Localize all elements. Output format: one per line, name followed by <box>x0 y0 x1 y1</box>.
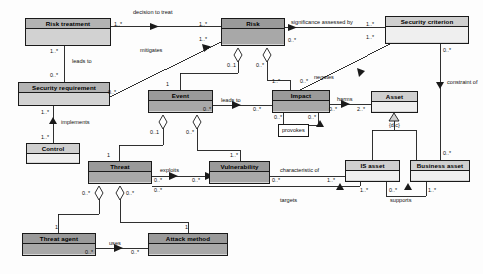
mult-threat-right: 0..* <box>154 177 162 183</box>
class-attributes-attack-method <box>149 244 227 254</box>
reading-arrow-decision-to-treat <box>150 23 159 30</box>
aggregation-diamond-threat-agent <box>95 186 103 200</box>
class-name-asset: Asset <box>372 92 417 102</box>
class-security-criterion[interactable]: Security criterion <box>385 16 469 44</box>
assoc-label-constraint-of: constraint of <box>447 79 477 86</box>
assoc-label-decision-to-treat: decision to treat <box>133 9 173 16</box>
class-name-risk: Risk <box>222 19 284 29</box>
assoc-label-harms: harms <box>337 96 353 103</box>
assoc-label-supports: supports <box>390 197 411 204</box>
reading-arrow-negates <box>357 68 365 77</box>
mult-control-up: 1..* <box>41 134 49 140</box>
reading-arrow-implements <box>49 117 57 124</box>
class-vulnerability[interactable]: Vulnerability <box>209 161 270 184</box>
class-name-security-criterion: Security criterion <box>386 17 468 27</box>
mult-is-asset-supports: 0..* <box>389 187 397 193</box>
reading-arrow-constraint-of <box>436 82 444 89</box>
mult-impact-top: 1..* <box>272 78 280 84</box>
class-attributes-vulnerability <box>210 172 269 182</box>
mult-is-asset-targets: 1..* <box>360 187 368 193</box>
class-security-requirement[interactable]: Security requirement <box>18 82 110 106</box>
mult-sec-crit-negates: 1..* <box>366 34 374 40</box>
mult-threat-agg-a: 0..* <box>82 190 90 196</box>
mult-risk-treatment-right: 1..* <box>114 21 122 27</box>
class-name-is-asset: IS asset <box>346 161 399 171</box>
class-impact[interactable]: Impact <box>272 90 330 113</box>
mult-risk-event-end: 0..1 <box>227 62 236 68</box>
class-control[interactable]: Control <box>26 143 80 164</box>
mult-threat-agent-top: 1 <box>55 224 58 230</box>
assoc-label-exploits: exploits <box>160 167 179 174</box>
mult-asset-left: 2..* <box>357 106 365 112</box>
assoc-label-implements: implements <box>61 119 90 126</box>
class-attributes-is-asset <box>346 171 399 180</box>
assoc-label-leads-to-treatment: leads to <box>72 58 92 65</box>
class-asset[interactable]: Asset <box>371 91 418 113</box>
class-attributes-security-criterion <box>386 27 468 42</box>
class-attributes-impact <box>273 101 329 111</box>
mult-impact-provokes-a: 0..* <box>274 114 282 120</box>
class-risk[interactable]: Risk <box>221 18 285 46</box>
class-name-threat: Threat <box>89 162 151 172</box>
mult-event-top: 1 <box>166 81 169 87</box>
mult-sec-req-right: 0..* <box>108 89 116 95</box>
assoc-label-targets: targets <box>280 197 297 204</box>
class-name-event: Event <box>149 91 212 101</box>
class-name-vulnerability: Vulnerability <box>210 162 269 172</box>
mult-risk-treatment-down: 1..* <box>50 48 58 54</box>
aggregation-diamond-event-vuln <box>193 115 201 129</box>
assoc-label-significance: significance assessed by <box>291 19 353 26</box>
mult-sec-crit-left: 1..* <box>366 21 374 27</box>
class-attack-method[interactable]: Attack method <box>148 233 228 256</box>
mult-impact-provokes-b: 0..* <box>308 114 316 120</box>
mult-threat-top: 1 <box>107 152 110 158</box>
mult-is-asset-left: 1..* <box>327 177 335 183</box>
class-business-asset[interactable]: Business asset <box>410 160 470 182</box>
mult-business-asset-constraint: 0..* <box>443 150 451 156</box>
class-name-risk-treatment: Risk treatment <box>26 19 110 29</box>
class-attributes-asset <box>372 102 417 111</box>
reading-arrow-supports <box>404 183 412 190</box>
class-name-threat-agent: Threat agent <box>23 234 95 244</box>
class-attributes-business-asset <box>411 171 469 180</box>
mult-sec-req-down: 1..* <box>41 109 49 115</box>
mult-threat-agent-right: 0..* <box>85 249 93 255</box>
mult-risk-impact-end: 0..* <box>256 62 264 68</box>
aggregation-diamond-risk-impact <box>263 48 271 62</box>
assoc-label-provokes: provokes <box>278 124 309 137</box>
assoc-label-uses: uses <box>109 240 121 247</box>
mult-risk-mitigates: 1..* <box>199 36 207 42</box>
mult-impact-harms: 0..* <box>329 106 337 112</box>
class-attributes-control <box>27 154 79 162</box>
reading-arrow-targets <box>336 183 344 190</box>
mult-impact-negates: 0..* <box>300 78 308 84</box>
mult-sec-crit-constraint: 0..* <box>443 47 451 53</box>
class-name-attack-method: Attack method <box>149 234 227 244</box>
class-name-security-requirement: Security requirement <box>19 83 109 93</box>
aggregation-diamond-event-threat <box>159 115 167 129</box>
assoc-label-characteristic-of: characteristic of <box>280 167 319 174</box>
assoc-label-mitigates: mitigates <box>140 47 162 54</box>
class-attributes-risk-treatment <box>26 29 110 44</box>
generalization-triangle-asset <box>389 113 399 121</box>
mult-attack-method-left: 0..* <box>131 249 139 255</box>
class-name-control: Control <box>27 144 79 154</box>
mult-impact-left: 0..* <box>253 106 261 112</box>
mult-vuln-left: 0..* <box>192 177 200 183</box>
class-name-impact: Impact <box>273 91 329 101</box>
mult-vuln-top: 1..* <box>230 152 238 158</box>
mult-event-threat-end: 0..1 <box>150 129 159 135</box>
aggregation-diamond-risk-event <box>234 48 242 62</box>
assoc-label-leads-to-event: leads to <box>221 97 241 104</box>
mult-event-vuln-end: 0..* <box>186 129 194 135</box>
class-attributes-threat <box>89 172 151 182</box>
uml-class-diagram: Risk treatment Risk Security criterion S… <box>0 0 483 274</box>
mult-threat-targets: 0..* <box>154 187 162 193</box>
generalization-constraint-dc: {d,c} <box>389 122 400 128</box>
class-is-asset[interactable]: IS asset <box>345 160 400 182</box>
class-threat[interactable]: Threat <box>88 161 152 184</box>
mult-threat-agg-b: 0..* <box>126 190 134 196</box>
mult-sec-req-up: 0..* <box>50 72 58 78</box>
class-risk-treatment[interactable]: Risk treatment <box>25 18 111 46</box>
class-name-business-asset: Business asset <box>411 161 469 171</box>
